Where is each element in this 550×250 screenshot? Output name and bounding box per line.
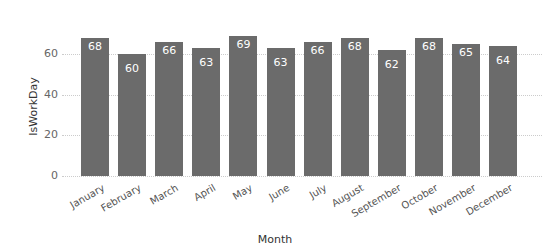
x-tick-label: July <box>308 182 329 201</box>
data-label: 63 <box>267 56 295 69</box>
bar-chart: IsWorkDay Month 020406068January60Februa… <box>0 0 550 250</box>
bar-december[interactable]: 64 <box>489 46 517 176</box>
y-tick-label: 20 <box>34 128 58 141</box>
data-label: 63 <box>192 56 220 69</box>
data-label: 66 <box>155 44 183 57</box>
data-label: 64 <box>489 54 517 67</box>
bar-november[interactable]: 65 <box>452 44 480 176</box>
bar-january[interactable]: 68 <box>81 38 109 176</box>
data-label: 65 <box>452 46 480 59</box>
bar-july[interactable]: 66 <box>304 42 332 176</box>
bar-february[interactable]: 60 <box>118 54 146 176</box>
x-tick-label: February <box>99 182 143 214</box>
y-tick-label: 0 <box>34 169 58 182</box>
data-label: 68 <box>341 40 369 53</box>
data-label: 62 <box>378 58 406 71</box>
x-tick-label: March <box>148 182 180 207</box>
data-label: 68 <box>415 40 443 53</box>
bar-march[interactable]: 66 <box>155 42 183 176</box>
x-tick-label: May <box>231 182 254 202</box>
data-label: 66 <box>304 44 332 57</box>
x-tick-label: April <box>192 182 217 203</box>
data-label: 68 <box>81 40 109 53</box>
bar-october[interactable]: 68 <box>415 38 443 176</box>
y-tick-label: 40 <box>34 88 58 101</box>
bar-june[interactable]: 63 <box>267 48 295 176</box>
gridline <box>62 176 542 177</box>
y-tick-label: 60 <box>34 47 58 60</box>
bar-august[interactable]: 68 <box>341 38 369 176</box>
data-label: 60 <box>118 62 146 75</box>
bar-may[interactable]: 69 <box>229 36 257 176</box>
x-tick-label: June <box>267 182 291 202</box>
data-label: 69 <box>229 38 257 51</box>
bar-september[interactable]: 62 <box>378 50 406 176</box>
x-axis-label: Month <box>0 233 550 246</box>
bar-april[interactable]: 63 <box>192 48 220 176</box>
